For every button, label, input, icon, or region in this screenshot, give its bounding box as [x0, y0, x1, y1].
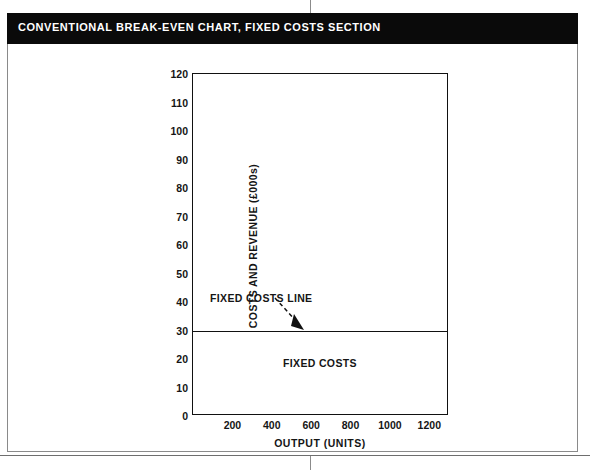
- x-axis-title: OUTPUT (UNITS): [192, 437, 448, 449]
- y-tick-label: 50: [148, 268, 188, 280]
- y-tick-label: 90: [148, 154, 188, 166]
- y-tick-label: 10: [148, 382, 188, 394]
- y-axis-title: COSTS AND REVENUE (£000s): [247, 146, 259, 346]
- y-tick-label: 30: [148, 325, 188, 337]
- fixed-costs-area-label: FIXED COSTS: [283, 357, 357, 369]
- y-tick-label: 70: [148, 211, 188, 223]
- x-tick-label: 1200: [404, 419, 454, 431]
- y-tick-label: 40: [148, 296, 188, 308]
- y-tick-label: 110: [148, 97, 188, 109]
- figure-title: CONVENTIONAL BREAK-EVEN CHART, FIXED COS…: [18, 21, 381, 33]
- plot-area: 0 10 20 30 40 50 60 70 80 90 100 110 120…: [192, 73, 448, 415]
- fixed-costs-line: [193, 331, 447, 333]
- scan-artifact-top: [310, 0, 311, 13]
- y-tick-label: 60: [148, 239, 188, 251]
- figure-page: CONVENTIONAL BREAK-EVEN CHART, FIXED COS…: [0, 0, 590, 470]
- y-tick-label: 20: [148, 353, 188, 365]
- y-tick-label: 100: [148, 125, 188, 137]
- page-rule-bottom: [0, 455, 590, 456]
- annotation-arrow-icon: [273, 296, 319, 336]
- title-banner: CONVENTIONAL BREAK-EVEN CHART, FIXED COS…: [7, 13, 578, 44]
- y-tick-label: 120: [148, 68, 188, 80]
- scan-artifact-bottom: [310, 456, 311, 470]
- y-tick-label: 0: [148, 410, 188, 422]
- y-tick-label: 80: [148, 182, 188, 194]
